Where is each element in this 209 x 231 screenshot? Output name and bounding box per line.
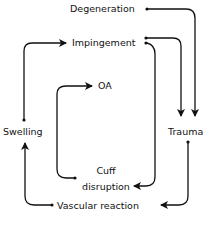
cuff-line-1: Cuff xyxy=(78,165,134,176)
edge-swelling-impingement xyxy=(24,43,66,120)
edge-trauma-vascular xyxy=(161,142,188,205)
edge-degeneration-trauma xyxy=(147,9,195,116)
node-degeneration: Degeneration xyxy=(70,3,135,14)
node-cuff-disruption: Cuff disruption xyxy=(78,165,134,192)
node-oa: OA xyxy=(98,80,112,91)
diagram-canvas: Degeneration Impingement OA Swelling Tra… xyxy=(0,0,209,231)
node-swelling: Swelling xyxy=(3,126,43,137)
node-impingement: Impingement xyxy=(72,37,135,48)
diagram-connectors xyxy=(0,0,209,231)
edge-impingement-cuff xyxy=(134,43,155,186)
edge-vascular-swelling xyxy=(25,143,52,205)
cuff-line-2: disruption xyxy=(78,181,134,192)
edge-impingement-trauma xyxy=(146,38,181,116)
node-vascular-reaction: Vascular reaction xyxy=(57,200,139,211)
node-trauma: Trauma xyxy=(168,126,203,137)
